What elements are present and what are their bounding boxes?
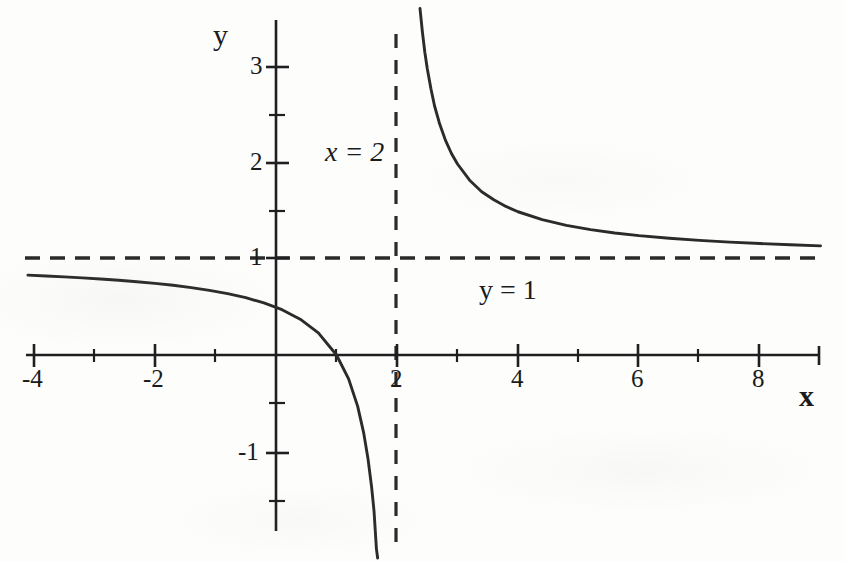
curve-right-branch bbox=[420, 8, 821, 246]
graph-figure: y x 3 2 1 -1 -4 -2 2 4 6 8 x = 2 y = 1 bbox=[0, 0, 844, 562]
curve-left-branch bbox=[28, 275, 378, 558]
x-tick-label-2: 2 bbox=[390, 366, 403, 391]
y-axis-label: y bbox=[213, 20, 228, 50]
x-tick-label-neg2: -2 bbox=[143, 366, 164, 391]
y-axis-major-ticks bbox=[266, 67, 289, 453]
y-tick-label-1: 1 bbox=[250, 244, 263, 269]
plot-canvas bbox=[0, 0, 844, 562]
x-tick-label-neg4: -4 bbox=[22, 366, 43, 391]
y-tick-label-3: 3 bbox=[250, 53, 263, 78]
x-tick-label-6: 6 bbox=[631, 366, 644, 391]
x-tick-label-8: 8 bbox=[752, 366, 765, 391]
x-axis-label: x bbox=[799, 381, 814, 411]
y-tick-label-2: 2 bbox=[250, 149, 263, 174]
y-tick-label-neg1: -1 bbox=[238, 439, 259, 464]
horizontal-asymptote-annotation: y = 1 bbox=[479, 276, 537, 304]
x-tick-label-4: 4 bbox=[511, 366, 524, 391]
vertical-asymptote-annotation: x = 2 bbox=[325, 138, 384, 166]
